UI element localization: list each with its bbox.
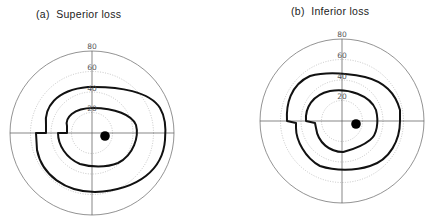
tick-20: 20 xyxy=(87,104,97,113)
tick-80: 80 xyxy=(87,42,97,51)
blind-spot-marker xyxy=(351,119,361,129)
panel-superior-loss: (a) Superior loss 20 40 60 80 xyxy=(0,0,215,218)
tick-20: 20 xyxy=(337,92,347,101)
blind-spot-marker xyxy=(100,131,110,141)
tick-80: 80 xyxy=(337,30,347,39)
panel-inferior-loss: (b) Inferior loss 20 40 60 80 xyxy=(214,0,429,218)
tick-60: 60 xyxy=(337,51,347,60)
tick-60: 60 xyxy=(87,63,97,72)
polar-plot-b: 20 40 60 80 xyxy=(214,0,429,218)
tick-40: 40 xyxy=(87,84,97,93)
outer-isopter xyxy=(36,87,165,192)
polar-plot-a: 20 40 60 80 xyxy=(0,0,215,218)
tick-40: 40 xyxy=(337,72,347,81)
